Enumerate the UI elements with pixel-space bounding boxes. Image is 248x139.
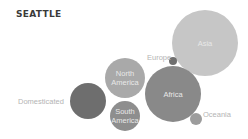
bubble-label-north-america-line1: North: [116, 69, 134, 78]
bubble-europe[interactable]: Europe: [147, 53, 177, 65]
bubble-label-south-america-line2: America: [111, 116, 139, 125]
bubble-label-domesticated: Domesticated: [18, 97, 64, 106]
bubble-label-oceania: Oceania: [203, 110, 232, 119]
bubble-south-america[interactable]: South America: [110, 101, 140, 131]
bubble-chart: Asia Africa Europe North America Domesti…: [0, 0, 248, 139]
bubble-asia[interactable]: Asia: [172, 10, 238, 76]
bubble-label-south-america-line1: South: [115, 107, 135, 116]
bubble-africa[interactable]: Africa: [145, 66, 201, 122]
bubble-label-north-america-line2: America: [111, 78, 139, 87]
bubble-label-africa: Africa: [163, 90, 183, 99]
bubble-oceania[interactable]: Oceania: [190, 110, 232, 125]
bubble-north-america[interactable]: North America: [105, 58, 145, 98]
bubble-domesticated[interactable]: Domesticated: [18, 83, 106, 119]
bubble-label-europe: Europe: [147, 53, 171, 62]
bubble-label-asia: Asia: [198, 39, 213, 48]
